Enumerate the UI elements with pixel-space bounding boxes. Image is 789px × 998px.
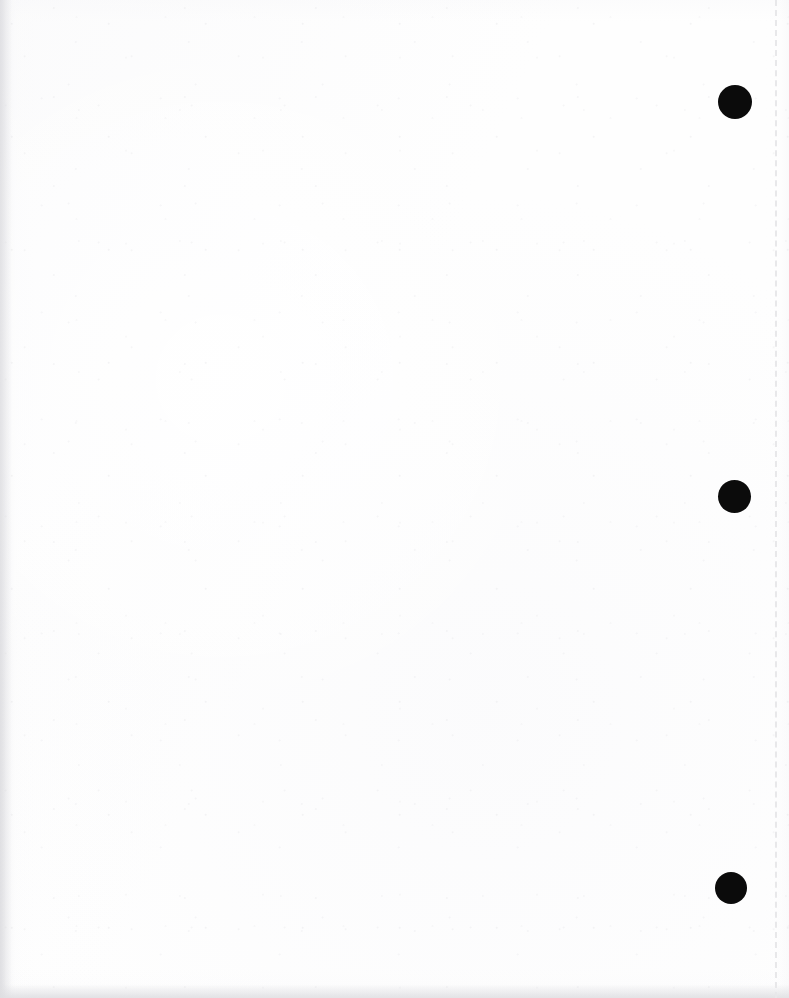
binding-mark-middle: [718, 480, 751, 513]
paper-surface: [0, 0, 789, 998]
scanned-page: [0, 0, 789, 998]
binding-mark-top: [718, 85, 752, 119]
binding-mark-bottom: [715, 872, 747, 904]
